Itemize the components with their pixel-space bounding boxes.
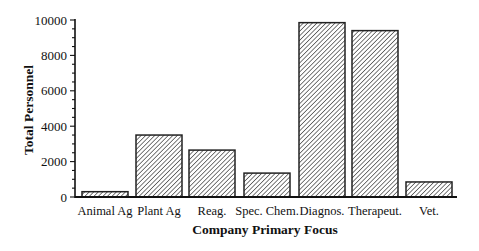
bars	[82, 23, 452, 197]
y-axis-title: Total Personnel	[21, 65, 36, 155]
x-tick-label: Plant Ag	[137, 204, 181, 218]
x-tick-label: Therapeut.	[348, 204, 402, 218]
x-tick-label: Spec. Chem.	[235, 204, 299, 218]
y-tick-label: 6000	[41, 83, 67, 98]
y-tick-label: 10000	[35, 13, 68, 28]
x-tick-label: Vet.	[419, 204, 439, 218]
y-tick-label: 4000	[41, 119, 67, 134]
y-tick-label: 2000	[41, 154, 67, 169]
bar-plant-ag	[136, 135, 182, 197]
bar-reag	[189, 150, 235, 197]
y-axis: 0200040006000800010000	[35, 13, 76, 205]
bar-vet	[406, 182, 452, 197]
x-tick-label: Reag.	[198, 204, 227, 218]
x-tick-label: Diagnos.	[300, 204, 345, 218]
y-tick-label: 0	[61, 190, 68, 205]
x-tick-label: Animal Ag	[77, 204, 133, 218]
x-axis-title: Company Primary Focus	[192, 222, 338, 237]
bar-therapeut	[352, 31, 398, 197]
bar-chart: 0200040006000800010000 Animal AgPlant Ag…	[0, 0, 479, 251]
y-tick-label: 8000	[41, 48, 67, 63]
x-axis: Animal AgPlant AgReag.Spec. Chem.Diagnos…	[75, 197, 457, 218]
bar-diagnos	[299, 23, 345, 197]
bar-spec-chem	[244, 173, 290, 197]
